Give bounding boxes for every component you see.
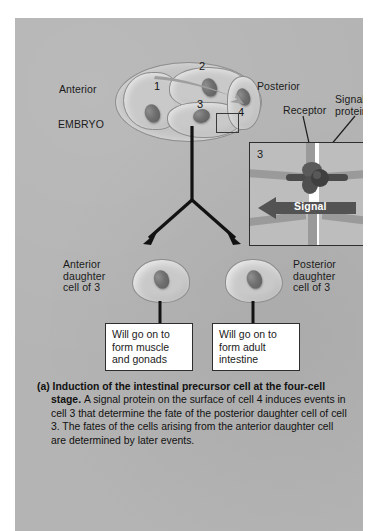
label-embryo: EMBRYO [58,119,104,131]
label-posterior: Posterior [257,81,300,93]
label-anterior-daughter: Anterior daughter cell of 3 [63,259,105,294]
receptor-signal-complex-icon [286,161,348,195]
cell-number-2: 2 [199,60,205,72]
division-branch-arrows [110,126,275,256]
figure-panel: 1 2 3 4 Anterior EMBRYO Posterior Recept… [15,18,363,531]
outcome-box-anterior: Will go on to form muscle and gonads [105,323,193,371]
caption-body: A signal protein on the surface of cell … [51,394,347,445]
signal-arrow-label: Signal [294,200,327,212]
figure-caption: (a) Induction of the intestinal precurso… [37,380,349,447]
outcome-box-posterior: Will go on to form adult intestine [212,323,300,371]
caption-part: (a) [37,381,50,392]
inset-pointer-icon [152,75,247,105]
label-anterior: Anterior [59,84,97,96]
label-posterior-daughter: Posterior daughter cell of 3 [293,259,336,294]
